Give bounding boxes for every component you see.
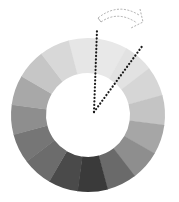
- arrow-outer-arc: [98, 9, 139, 18]
- color-wheel-diagram: [0, 0, 179, 202]
- arrow-tail: [98, 18, 101, 22]
- arrow-head: [131, 9, 143, 28]
- rotation-arrow-icon: [98, 9, 143, 28]
- grayscale-ring: [11, 38, 165, 192]
- arrow-inner-arc: [101, 16, 137, 23]
